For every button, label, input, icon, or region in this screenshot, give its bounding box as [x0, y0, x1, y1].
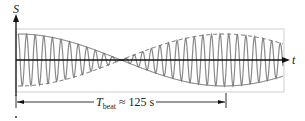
tbeat-left-arrow-icon	[17, 100, 24, 104]
tbeat-right-arrow-icon	[218, 100, 225, 104]
beat-value: 125 s	[129, 95, 155, 109]
beat-symbol: T	[96, 95, 103, 109]
x-axis-label: t	[292, 54, 295, 66]
beat-subscript: beat	[103, 102, 116, 111]
stray-mark	[15, 116, 17, 118]
y-axis-label: S	[13, 3, 19, 15]
approx-sign: ≈	[119, 95, 126, 109]
t-axis-arrow-icon	[282, 57, 290, 63]
beat-period-label: Tbeat ≈ 125 s	[94, 95, 156, 111]
